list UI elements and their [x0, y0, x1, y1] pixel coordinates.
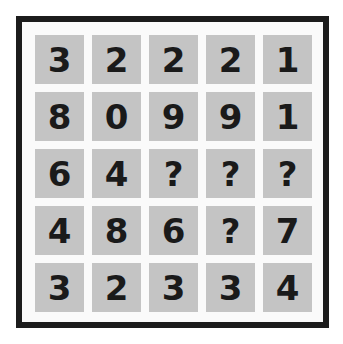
cell-r2-c4: 9 — [206, 92, 255, 141]
cell-r1-c5: 1 — [263, 35, 312, 84]
puzzle-board: 3 2 2 2 1 8 0 9 9 1 6 4 ? ? ? 4 8 6 ? 7 … — [16, 16, 329, 328]
cell-r4-c2: 8 — [92, 206, 141, 255]
cell-r5-c4: 3 — [206, 263, 255, 312]
cell-r2-c2: 0 — [92, 92, 141, 141]
cell-r1-c3: 2 — [149, 35, 198, 84]
cell-r4-c5: 7 — [263, 206, 312, 255]
number-grid: 3 2 2 2 1 8 0 9 9 1 6 4 ? ? ? 4 8 6 ? 7 … — [35, 35, 312, 312]
cell-r4-c4-unknown: ? — [206, 206, 255, 255]
cell-r4-c1: 4 — [35, 206, 84, 255]
cell-r3-c2: 4 — [92, 149, 141, 198]
cell-r5-c3: 3 — [149, 263, 198, 312]
cell-r4-c3: 6 — [149, 206, 198, 255]
cell-r2-c3: 9 — [149, 92, 198, 141]
cell-r3-c5-unknown: ? — [263, 149, 312, 198]
cell-r2-c1: 8 — [35, 92, 84, 141]
cell-r1-c4: 2 — [206, 35, 255, 84]
cell-r3-c3-unknown: ? — [149, 149, 198, 198]
cell-r1-c2: 2 — [92, 35, 141, 84]
cell-r5-c1: 3 — [35, 263, 84, 312]
cell-r5-c5: 4 — [263, 263, 312, 312]
cell-r3-c4-unknown: ? — [206, 149, 255, 198]
cell-r1-c1: 3 — [35, 35, 84, 84]
cell-r5-c2: 2 — [92, 263, 141, 312]
cell-r2-c5: 1 — [263, 92, 312, 141]
cell-r3-c1: 6 — [35, 149, 84, 198]
